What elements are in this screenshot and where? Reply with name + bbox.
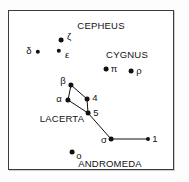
star-cygnus-pi-label: π xyxy=(111,64,118,74)
star-cygnus-pi xyxy=(104,67,109,72)
star-lacerta-4 xyxy=(85,97,90,102)
sky-field: ζεδπρβα45σ1οCEPHEUSCYGNUSLACERTAANDROMED… xyxy=(9,11,173,169)
star-lacerta-1-label: 1 xyxy=(152,134,157,144)
star-lacerta-5-label: 5 xyxy=(93,108,98,118)
star-cepheus-zeta xyxy=(59,38,64,43)
star-cygnus-rho-label: ρ xyxy=(136,66,141,76)
constellation-name-cepheus: CEPHEUS xyxy=(77,21,124,31)
chart-frame: ζεδπρβα45σ1οCEPHEUSCYGNUSLACERTAANDROMED… xyxy=(8,10,174,170)
star-lacerta-sigma-label: σ xyxy=(101,135,107,145)
constellation-name-andromeda: ANDROMEDA xyxy=(78,159,142,169)
star-lacerta-1 xyxy=(146,137,150,141)
star-cepheus-epsilon-label: ε xyxy=(65,50,69,60)
constellation-lines-layer xyxy=(9,11,175,171)
star-lacerta-alpha-label: α xyxy=(56,94,62,104)
star-andromeda-omicron xyxy=(70,150,75,155)
constellation-name-lacerta: LACERTA xyxy=(40,114,84,124)
star-lacerta-sigma xyxy=(109,137,114,142)
star-lacerta-beta-label: β xyxy=(60,76,65,86)
constellation-name-cygnus: CYGNUS xyxy=(106,50,148,60)
line-5-sigma xyxy=(88,113,111,139)
star-cygnus-rho xyxy=(129,69,134,74)
star-cepheus-zeta-label: ζ xyxy=(67,32,71,42)
star-lacerta-4-label: 4 xyxy=(92,93,97,103)
star-cepheus-delta-label: δ xyxy=(26,46,31,56)
star-lacerta-5 xyxy=(86,111,91,116)
star-chart-figure: ζεδπρβα45σ1οCEPHEUSCYGNUSLACERTAANDROMED… xyxy=(0,0,189,182)
